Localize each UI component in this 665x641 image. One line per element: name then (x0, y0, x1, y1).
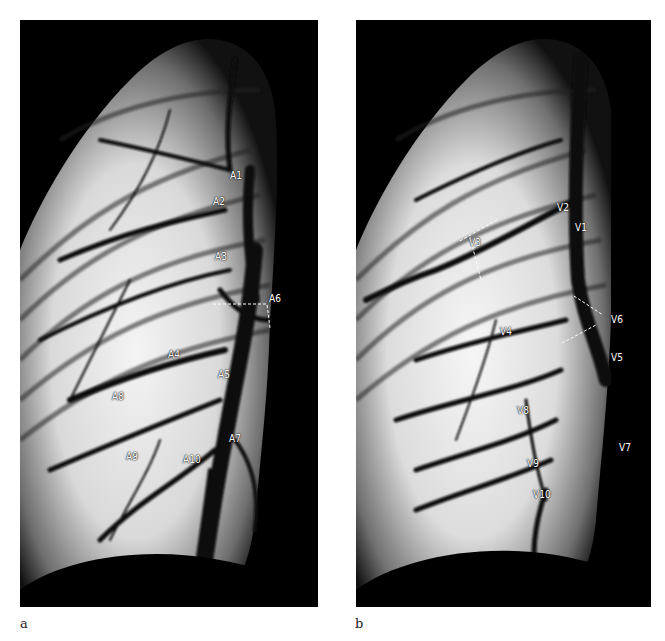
label-a2: A2 (213, 197, 225, 207)
label-a5: A5 (218, 370, 230, 380)
label-a6: A6 (269, 294, 281, 304)
label-a10: A10 (183, 455, 201, 465)
label-v9: V9 (527, 459, 539, 469)
label-v1: V1 (575, 223, 587, 233)
label-a4: A4 (168, 350, 180, 360)
label-v10: V10 (533, 490, 551, 500)
label-a8: A8 (112, 392, 124, 402)
label-a1: A1 (230, 171, 242, 181)
label-v4: V4 (500, 327, 512, 337)
label-v5: V5 (611, 353, 623, 363)
panel-a-caption: a (20, 616, 28, 631)
label-a9: A9 (126, 452, 138, 462)
angiogram-panel-b (356, 20, 651, 607)
angiogram-panel-a (20, 20, 318, 607)
label-v6: V6 (611, 315, 623, 325)
lung-arterial-image (20, 20, 318, 607)
label-a7: A7 (229, 434, 241, 444)
panel-b-caption: b (355, 616, 363, 631)
label-v3: V3 (469, 238, 481, 248)
lung-venous-image (356, 20, 651, 607)
label-v2: V2 (557, 203, 569, 213)
label-a3: A3 (215, 252, 227, 262)
label-v7: V7 (619, 443, 631, 453)
label-v8: V8 (517, 406, 529, 416)
